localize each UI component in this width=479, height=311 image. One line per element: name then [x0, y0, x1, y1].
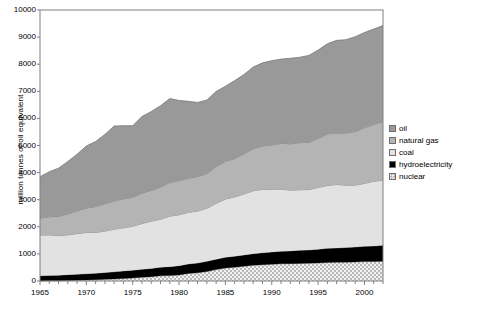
- legend-item-hydroelectricity[interactable]: hydroelectricity: [389, 158, 479, 170]
- x-tick-label: 1995: [298, 288, 338, 297]
- x-tick-label: 2000: [344, 288, 384, 297]
- legend-item-nuclear[interactable]: nuclear: [389, 170, 479, 182]
- legend-swatch-icon: [389, 125, 396, 132]
- x-tick-label: 1980: [159, 288, 199, 297]
- legend-item-label: natural gas: [399, 136, 439, 145]
- chart-legend: oilnatural gascoalhydroelectricitynuclea…: [389, 122, 479, 182]
- legend-item-label: oil: [399, 124, 407, 133]
- legend-item-natural-gas[interactable]: natural gas: [389, 134, 479, 146]
- x-tick-label: 1990: [252, 288, 292, 297]
- legend-item-label: coal: [399, 148, 414, 157]
- legend-swatch-icon: [389, 161, 396, 168]
- legend-item-coal[interactable]: coal: [389, 146, 479, 158]
- legend-swatch-icon: [389, 137, 396, 144]
- legend-item-oil[interactable]: oil: [389, 122, 479, 134]
- legend-swatch-icon: [389, 149, 396, 156]
- legend-item-label: hydroelectricity: [399, 160, 452, 169]
- legend-swatch-icon: [389, 173, 396, 180]
- stacked-area-chart: million tonnes of oil equivalent 0100020…: [0, 0, 479, 311]
- x-tick-label: 1965: [20, 288, 60, 297]
- x-tick-label: 1975: [113, 288, 153, 297]
- legend-item-label: nuclear: [399, 172, 425, 181]
- x-tick-label: 1985: [205, 288, 245, 297]
- x-tick-label: 1970: [66, 288, 106, 297]
